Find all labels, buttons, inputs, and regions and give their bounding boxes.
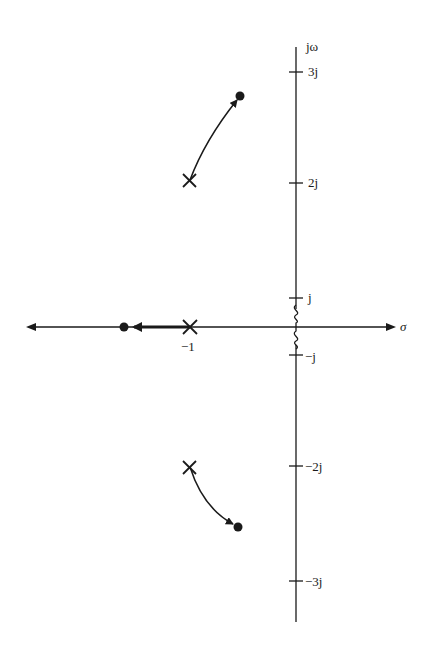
pole-upper-x-icon [183, 174, 196, 187]
real-axis [26, 323, 396, 331]
zero-lower-dot-icon [234, 523, 243, 532]
imag-axis [289, 47, 303, 622]
real-axis-label: σ [400, 320, 406, 334]
tick-label-minus-j: −j [305, 350, 316, 364]
tick-label-minus-3j: −3j [305, 575, 322, 589]
real-axis-right-arrow-icon [386, 323, 396, 331]
zero-upper-dot-icon [236, 92, 245, 101]
branch-upper [183, 92, 245, 188]
axis-break-lower-icon [294, 327, 297, 349]
imag-axis-label: jω [306, 40, 318, 54]
tick-label-j: j [308, 291, 312, 305]
root-locus-diagram: jω σ 3j 2j j −j −2j −3j −1 [0, 0, 430, 650]
tick-label-2j: 2j [308, 176, 318, 190]
pole-lower-x-icon [183, 461, 196, 474]
zero-real-dot-icon [120, 323, 129, 332]
tick-label-minus-1: −1 [181, 340, 195, 354]
branch-lower [183, 461, 243, 532]
real-axis-left-arrow-icon [26, 323, 36, 331]
root-locus-plot [0, 0, 430, 650]
tick-label-3j: 3j [308, 65, 318, 79]
tick-label-minus-2j: −2j [305, 460, 322, 474]
